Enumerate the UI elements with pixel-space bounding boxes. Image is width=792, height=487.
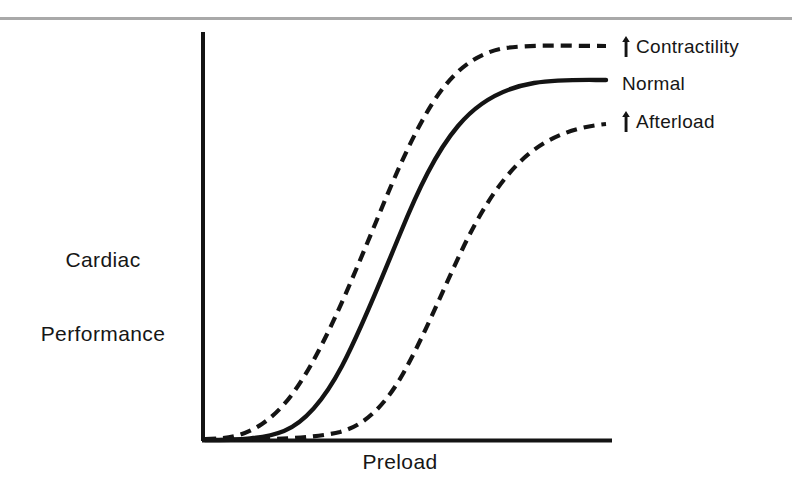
up-arrow-icon: [618, 36, 636, 58]
legend-item-contractility: Contractility: [618, 36, 739, 58]
y-axis-label-line1: Cardiac: [18, 248, 188, 273]
x-axis-label: Preload: [300, 450, 500, 475]
legend-label-contractility: Contractility: [636, 36, 739, 58]
y-axis-label-line2: Performance: [18, 322, 188, 347]
up-arrow-icon: [618, 111, 636, 133]
legend-label-normal: Normal: [622, 73, 685, 95]
legend-item-normal: Normal: [618, 73, 685, 95]
y-axis-label: Cardiac Performance: [18, 198, 188, 396]
cardiac-function-curve-figure: Cardiac Performance Preload Contractilit…: [0, 0, 792, 487]
legend-item-afterload: Afterload: [618, 111, 715, 133]
legend-label-afterload: Afterload: [636, 111, 715, 133]
